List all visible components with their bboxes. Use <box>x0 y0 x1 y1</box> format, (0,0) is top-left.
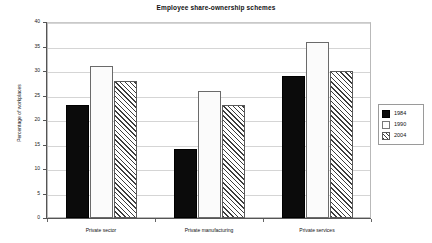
y-tick-mark <box>43 22 46 23</box>
legend-swatch-icon <box>382 110 390 118</box>
y-tick-mark <box>43 169 46 170</box>
x-axis-label: Private services <box>299 227 334 233</box>
y-tick-mark <box>43 218 46 219</box>
legend-swatch-icon <box>382 132 390 140</box>
legend-swatch-icon <box>382 121 390 129</box>
x-axis-label: Private sector <box>86 227 117 233</box>
bar-1984-private-services <box>282 76 305 218</box>
gridline <box>48 23 370 24</box>
x-tick-mark <box>371 219 372 222</box>
chart-container: Employee share-ownership schemes 0510152… <box>0 0 432 243</box>
bar-2004-private-sector <box>114 81 137 218</box>
legend-label: 1984 <box>394 111 406 117</box>
bar-1984-private-sector <box>66 105 89 218</box>
y-tick-label: 5 <box>14 191 40 196</box>
bar-2004-private-manufacturing <box>222 105 245 218</box>
y-tick-label: 0 <box>14 215 40 220</box>
bar-1990-private-manufacturing <box>198 91 221 218</box>
bar-1990-private-services <box>306 42 329 218</box>
y-tick-mark <box>43 120 46 121</box>
bar-1984-private-manufacturing <box>174 149 197 218</box>
bar-2004-private-services <box>330 71 353 218</box>
legend-item-1990[interactable]: 1990 <box>382 119 420 130</box>
y-tick-mark <box>43 194 46 195</box>
y-tick-mark <box>43 71 46 72</box>
y-tick-label: 35 <box>14 44 40 49</box>
legend-item-2004[interactable]: 2004 <box>382 130 420 141</box>
x-tick-mark <box>47 219 48 222</box>
y-tick-mark <box>43 96 46 97</box>
legend-label: 1990 <box>394 122 406 128</box>
y-tick-label: 40 <box>14 19 40 24</box>
chart-title: Employee share-ownership schemes <box>0 4 432 11</box>
x-tick-mark <box>263 219 264 222</box>
legend-label: 2004 <box>394 133 406 139</box>
legend-item-1984[interactable]: 1984 <box>382 108 420 119</box>
y-tick-mark <box>43 47 46 48</box>
x-axis-line <box>47 218 371 219</box>
y-axis-line <box>46 22 47 219</box>
y-tick-mark <box>43 145 46 146</box>
chart-legend: 198419902004 <box>378 104 424 145</box>
x-axis-label: Private manufacturing <box>185 227 234 233</box>
x-tick-mark <box>155 219 156 222</box>
y-axis-title: Percentage of workplaces <box>16 53 22 173</box>
bar-1990-private-sector <box>90 66 113 218</box>
